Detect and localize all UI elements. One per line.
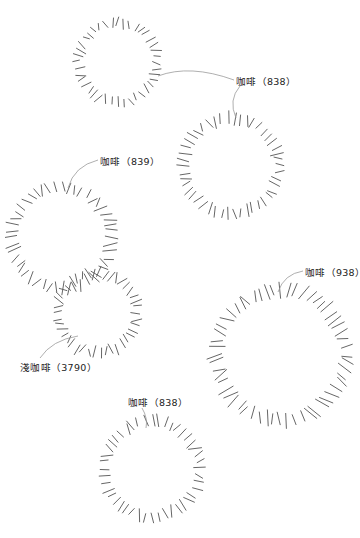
leader-line-l1-0 [158, 71, 234, 80]
label-coffee-838-bottom: 咖啡（838） [128, 395, 188, 409]
leader-line-l5-0 [142, 408, 147, 428]
label-coffee-938: 咖啡（938） [305, 265, 360, 279]
sketch-circle-c6 [99, 414, 205, 523]
sketch-circle-c1 [73, 17, 162, 107]
sketch-circle-c2 [177, 111, 284, 220]
leader-line-l4-0 [278, 271, 303, 292]
circles-layer [5, 17, 353, 523]
label-light-coffee-3790: 淺咖啡（3790） [20, 360, 97, 374]
sketch-circle-c3 [5, 182, 117, 295]
label-coffee-838-top: 咖啡（838） [236, 74, 296, 88]
leader-line-l2-0 [68, 160, 98, 188]
sketch-circle-c5 [207, 282, 353, 428]
leaders-layer [40, 71, 303, 428]
label-coffee-839: 咖啡（839） [100, 154, 160, 168]
leader-line-l3-0 [40, 336, 78, 358]
